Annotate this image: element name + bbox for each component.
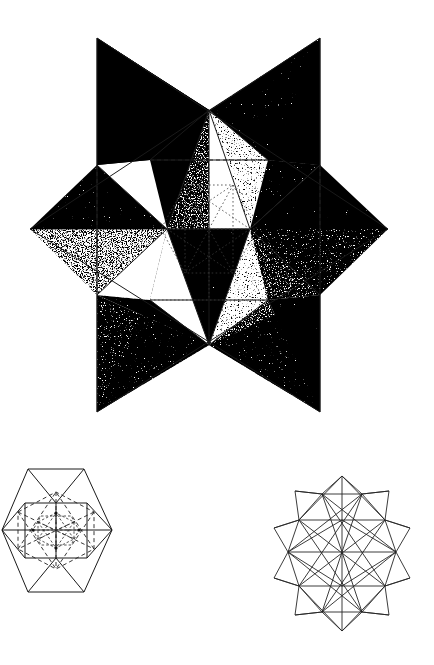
illustration-plate — [0, 0, 434, 665]
small-star-svg — [250, 460, 434, 645]
hexagonal-projection-figure — [0, 440, 217, 665]
main-star-svg — [0, 0, 434, 440]
hexagon-diagram-svg — [0, 440, 217, 665]
small-stellated-polyhedron-figure — [250, 460, 434, 645]
main-stellated-star-figure — [0, 0, 434, 440]
